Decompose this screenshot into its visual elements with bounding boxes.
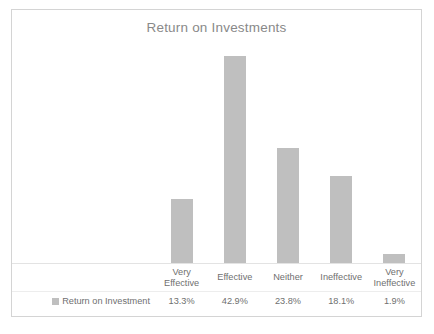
series-value-row: Return on Investment 13.3% 42.9% 23.8% 1…: [12, 291, 421, 310]
value-ineffective: 18.1%: [315, 296, 368, 307]
value-effective: 42.9%: [208, 296, 261, 307]
category-label-line: Effective: [156, 278, 207, 289]
bar-ineffective[interactable]: [330, 176, 352, 263]
legend-swatch-icon: [52, 298, 59, 305]
value-very-ineffective: 1.9%: [368, 296, 421, 307]
category-label-line: Very: [156, 267, 207, 278]
category-label-ineffective: Ineffective: [315, 272, 368, 283]
plot-area: [12, 41, 421, 263]
bar-slot: [155, 41, 208, 263]
category-label-line: Ineffective: [369, 278, 420, 289]
category-label-line: Effective: [209, 272, 260, 283]
bar-slot: [208, 41, 261, 263]
category-label-very-effective: Very Effective: [155, 267, 208, 288]
category-label-line: Ineffective: [316, 272, 367, 283]
category-label-very-ineffective: Very Ineffective: [368, 267, 421, 288]
value-very-effective: 13.3%: [155, 296, 208, 307]
data-table: Very Effective Effective Neither Ineffec…: [12, 263, 421, 316]
category-header-row: Very Effective Effective Neither Ineffec…: [12, 264, 421, 291]
category-label-neither: Neither: [261, 272, 314, 283]
chart-title: Return on Investments: [12, 10, 421, 41]
value-neither: 23.8%: [261, 296, 314, 307]
chart-frame: Return on Investments Very E: [11, 9, 422, 317]
bar-effective[interactable]: [224, 56, 246, 263]
category-label-effective: Effective: [208, 272, 261, 283]
bar-neither[interactable]: [277, 148, 299, 263]
bar-slot: [368, 41, 421, 263]
category-label-line: Very: [369, 267, 420, 278]
bar-slot: [315, 41, 368, 263]
series-legend: Return on Investment: [12, 296, 155, 306]
category-label-line: Neither: [262, 272, 313, 283]
bars-layer: [12, 41, 421, 263]
bar-very-ineffective[interactable]: [383, 254, 405, 263]
bar-very-effective[interactable]: [171, 199, 193, 263]
bar-slot: [261, 41, 314, 263]
series-name-label: Return on Investment: [62, 296, 150, 306]
